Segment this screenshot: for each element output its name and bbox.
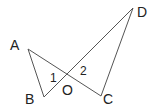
segment-ab [28, 49, 44, 97]
segment-dc [101, 8, 133, 96]
angle-2-label: 2 [80, 64, 87, 78]
angle-1-label: 1 [50, 71, 57, 85]
label-c: C [103, 91, 113, 107]
label-b: B [25, 91, 34, 107]
label-a: A [10, 37, 20, 53]
segment-bd [44, 8, 133, 97]
label-o: O [62, 82, 73, 98]
label-d: D [137, 4, 147, 20]
geometry-figure: A B O C D 1 2 [0, 0, 154, 110]
